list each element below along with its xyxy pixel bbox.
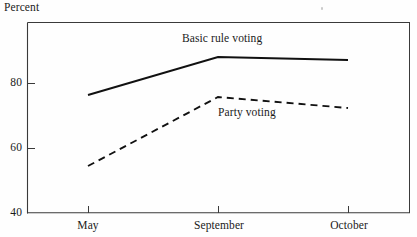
y-tick-label-80: 80 [0,76,22,88]
axis-frame [27,23,410,214]
series-label-basic-rule-voting: Basic rule voting [182,32,262,44]
x-axis-ticks [89,206,349,213]
x-tick-label-may: May [77,219,98,231]
series-line-basic-rule-voting [88,57,348,95]
y-tick-label-40: 40 [0,206,22,218]
chart-figure: Percent 80 60 40 May September October B… [0,0,417,237]
x-tick-label-september: September [194,219,244,231]
series-label-party-voting: Party voting [218,106,276,118]
y-axis-ticks [28,84,36,149]
y-tick-label-60: 60 [0,141,22,153]
x-tick-label-october: October [330,219,368,231]
